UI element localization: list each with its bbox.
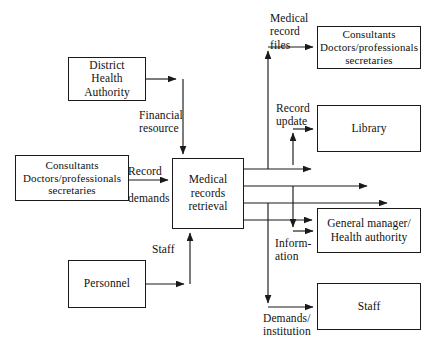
node-medical-records-retrieval-label: Medical records retrieval: [186, 173, 229, 214]
node-general-manager: General manager/ Health authority: [317, 208, 421, 253]
node-personnel: Personnel: [68, 260, 146, 308]
node-personnel-label: Personnel: [82, 277, 132, 291]
node-staff-label: Staff: [356, 300, 383, 314]
node-medical-records-retrieval: Medical records retrieval: [172, 158, 244, 229]
node-consultants-left-label: Consultants Doctors/professionals secret…: [21, 159, 123, 198]
edge-label-demands-institution: Demands/ institution: [263, 312, 311, 339]
edge-label-record-demands: Record demands: [128, 165, 170, 205]
node-district-health-authority: District Health Authority: [68, 57, 146, 101]
edge-label-record-update: Record update: [276, 102, 310, 129]
node-consultants-right: Consultants Doctors/professionals secret…: [317, 26, 421, 69]
node-district-health-authority-label: District Health Authority: [82, 59, 132, 100]
node-library-label: Library: [349, 122, 388, 136]
edge-label-information: Inform- ation: [275, 237, 311, 264]
edge-label-medical-record-files: Medical record files: [270, 12, 308, 52]
node-general-manager-label: General manager/ Health authority: [325, 217, 413, 244]
node-library: Library: [317, 105, 421, 152]
flow-diagram: District Health Authority Consultants Do…: [0, 0, 433, 354]
node-consultants-right-label: Consultants Doctors/professionals secret…: [318, 28, 420, 67]
node-consultants-left: Consultants Doctors/professionals secret…: [15, 155, 129, 201]
edge-label-financial-resource: Financial resource: [139, 109, 183, 136]
edge-label-staff-input: Staff: [152, 243, 175, 256]
node-staff: Staff: [317, 283, 421, 330]
